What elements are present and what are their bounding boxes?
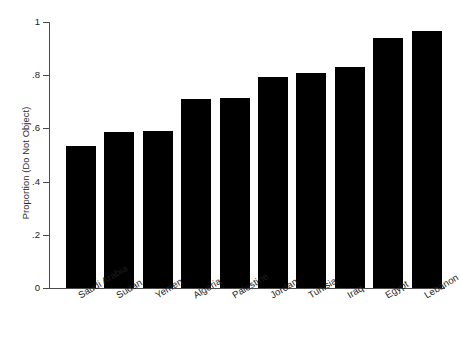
- bar: [373, 38, 403, 288]
- y-tick-label: .6: [6, 122, 40, 133]
- y-tick-label: .8: [6, 69, 40, 80]
- y-tick-mark: [43, 288, 49, 289]
- bar: [412, 31, 442, 288]
- bar-column: [412, 22, 442, 288]
- bar: [181, 99, 211, 288]
- bar: [220, 98, 250, 288]
- bar-column: [220, 22, 250, 288]
- bar: [296, 73, 326, 288]
- bar: [258, 77, 288, 288]
- plot-area: [49, 22, 445, 288]
- bar: [143, 131, 173, 288]
- bar-column: [104, 22, 134, 288]
- bar: [335, 67, 365, 288]
- bar-column: [143, 22, 173, 288]
- bar: [66, 146, 96, 288]
- bar-column: [258, 22, 288, 288]
- bar-column: [373, 22, 403, 288]
- y-tick-label: 1: [6, 16, 40, 27]
- y-tick-label: 0: [6, 282, 40, 293]
- bar-column: [181, 22, 211, 288]
- bar-column: [66, 22, 96, 288]
- bar-column: [296, 22, 326, 288]
- bar-column: [335, 22, 365, 288]
- y-tick-label: .4: [6, 176, 40, 187]
- y-tick-label: .2: [6, 229, 40, 240]
